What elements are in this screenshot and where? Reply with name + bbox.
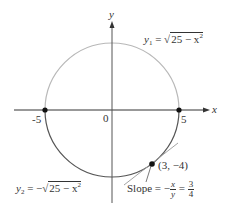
lower-curve-rhs-prefix: = − (27, 182, 42, 194)
point-3-neg4-label: (3, −4) (158, 160, 188, 171)
point-5-0 (176, 107, 181, 112)
lower-curve-equation: y2 = −√25 − x2 (16, 182, 81, 196)
upper-curve-radicand: 25 − x2 (170, 32, 203, 45)
lower-curve-radicand-text: 25 − x (49, 182, 77, 194)
tick-label-5: 5 (181, 114, 187, 125)
point-neg5-0 (42, 107, 47, 112)
slope-equals: = (179, 182, 185, 194)
slope-frac1-den: y (170, 190, 176, 199)
upper-curve-sub: 1 (149, 39, 153, 47)
upper-curve-radicand-text: 25 − x (171, 33, 199, 45)
tick-label-neg5: -5 (32, 114, 41, 125)
lower-curve-exponent: 2 (78, 181, 82, 189)
upper-curve-equation: y1 = √25 − x2 (144, 33, 203, 47)
origin-label: 0 (103, 113, 109, 124)
slope-prefix: Slope = − (127, 182, 170, 194)
lower-curve-radicand: 25 − x2 (48, 181, 81, 194)
slope-annotation: Slope = −xy = 34 (127, 180, 194, 199)
y-axis-label: y (109, 9, 114, 20)
upper-curve-exponent: 2 (199, 32, 203, 40)
x-axis-arrow-icon (203, 108, 210, 113)
slope-fraction-xy: xy (170, 180, 176, 199)
lower-curve-sub: 2 (21, 188, 25, 196)
upper-curve-rhs-prefix: = (155, 33, 164, 45)
slope-frac2-den: 4 (188, 190, 195, 199)
y-axis-arrow-icon (110, 21, 115, 28)
x-axis-label: x (212, 104, 217, 115)
point-3-neg4 (149, 161, 155, 167)
slope-fraction-value: 34 (188, 180, 195, 199)
